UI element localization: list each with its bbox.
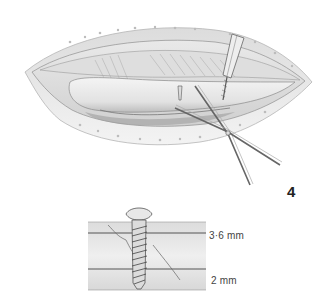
textbook-figure: 4 3·6 mm 2 mm [0,0,319,308]
screw-cross-section-inset [88,208,206,290]
label-2mm: 2 mm [211,275,237,286]
label-3-6mm: 3·6 mm [209,230,244,241]
surgical-illustration [0,0,319,308]
figure-number: 4 [287,183,295,200]
